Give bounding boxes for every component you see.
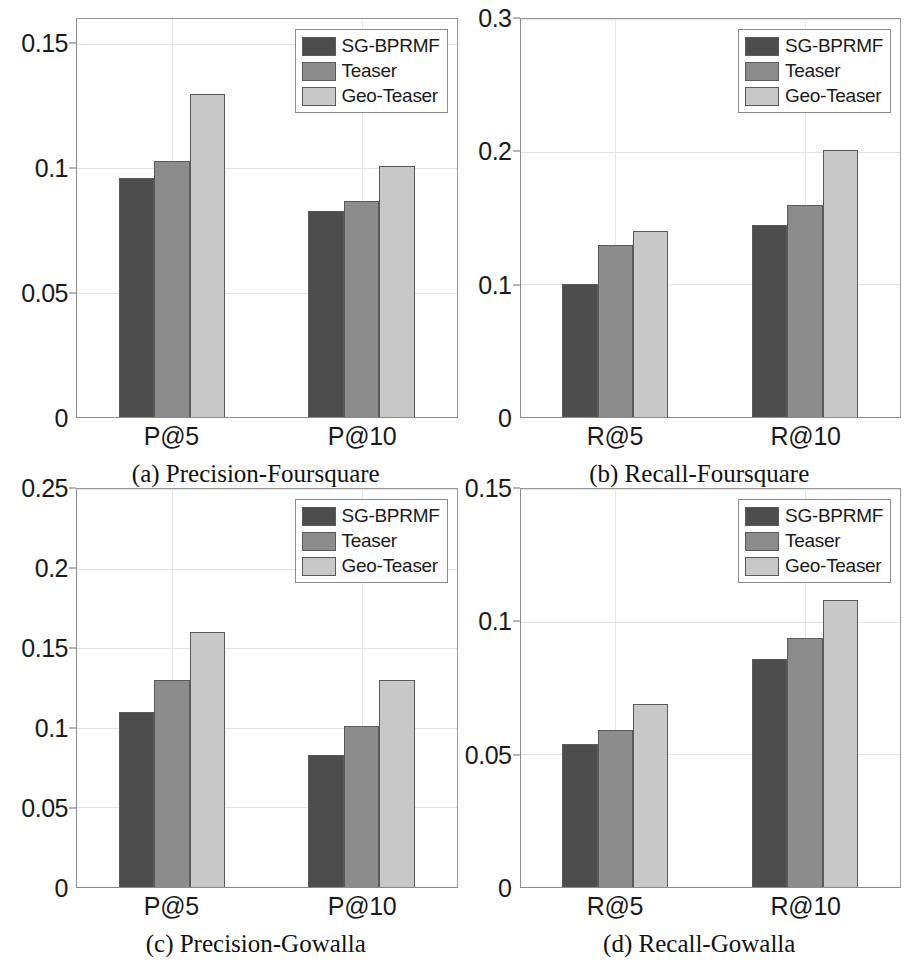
legend-label: SG-BPRMF [785,505,883,527]
bar-p-at-10-sg-bprmf [308,755,343,887]
caption-a: (a) Precision-Foursquare [54,460,458,488]
y-tick-mark [513,18,520,19]
y-tick-label: 0.3 [478,4,511,33]
x-axis-ticks-a: P@5P@10 [76,418,458,458]
legend-swatch-teaser [745,62,779,81]
y-tick-label: 0.2 [35,554,68,583]
y-tick-mark [513,621,520,622]
bar-p-at-5-teaser [154,161,189,417]
y-tick-label: 0.1 [478,607,511,636]
legend-row: SG-BPRMF [302,505,440,527]
bar-r-at-10-geo-teaser [823,150,858,417]
legend-label: Geo-Teaser [342,555,438,577]
legend-label: Teaser [785,60,840,82]
y-tick-label: 0 [498,404,511,433]
x-axis-ticks-b: R@5R@10 [520,418,902,458]
plot-row: 00.050.10.15 SG-BPRMFTeaserGeo-Teaser [458,488,902,888]
legend-row: Teaser [745,530,883,552]
y-tick-mark [69,808,76,809]
y-tick-label: 0.05 [21,279,68,308]
bar-p-at-5-sg-bprmf [119,712,154,887]
bar-r-at-10-teaser [787,205,822,417]
y-tick-label: 0.15 [21,29,68,58]
legend-d: SG-BPRMFTeaserGeo-Teaser [738,499,891,583]
legend-row: Teaser [302,60,440,82]
axes-c: SG-BPRMFTeaserGeo-Teaser [76,488,458,888]
plot-row: 00.10.20.3 SG-BPRMFTeaserGeo-Teaser [458,18,902,418]
bar-p-at-10-teaser [344,726,379,887]
y-tick-mark [513,754,520,755]
plot-row: 00.050.10.150.20.25 SG-BPRMFTeaserGeo-Te… [14,488,458,888]
x-tick-label: P@5 [144,892,199,921]
y-axis-ticks-c: 00.050.10.150.20.25 [14,488,76,888]
y-tick-mark [69,488,76,489]
legend-b: SG-BPRMFTeaserGeo-Teaser [738,29,891,113]
y-tick-label: 0 [498,874,511,903]
y-tick-mark [69,293,76,294]
x-tick-label: P@10 [328,892,397,921]
panel-c-precision-gowalla: 00.050.10.150.20.25 SG-BPRMFTeaserGeo-Te… [14,488,458,958]
x-tick-label: R@5 [587,422,643,451]
bar-r-at-5-sg-bprmf [562,744,597,887]
caption-d: (d) Recall-Gowalla [498,930,902,958]
legend-row: SG-BPRMF [302,35,440,57]
bar-p-at-5-geo-teaser [190,632,225,887]
plot-row: 00.050.10.15 SG-BPRMFTeaserGeo-Teaser [14,18,458,418]
bar-r-at-10-teaser [787,638,822,887]
legend-swatch-geo-teaser [745,557,779,576]
legend-swatch-teaser [302,532,336,551]
y-tick-mark [69,168,76,169]
panel-d-recall-gowalla: 00.050.10.15 SG-BPRMFTeaserGeo-Teaser R@… [458,488,902,958]
legend-row: Geo-Teaser [302,85,440,107]
x-axis-ticks-d: R@5R@10 [520,888,902,928]
legend-swatch-sg-bprmf [745,37,779,56]
panel-a-precision-foursquare: 00.050.10.15 SG-BPRMFTeaserGeo-Teaser P@… [14,18,458,488]
legend-row: Teaser [745,60,883,82]
x-tick-label: R@10 [771,892,841,921]
y-tick-label: 0.1 [478,270,511,299]
y-tick-mark [69,43,76,44]
legend-swatch-geo-teaser [302,557,336,576]
panel-b-recall-foursquare: 00.10.20.3 SG-BPRMFTeaserGeo-Teaser R@5R… [458,18,902,488]
legend-swatch-geo-teaser [745,87,779,106]
axes-d: SG-BPRMFTeaserGeo-Teaser [520,488,902,888]
bar-r-at-5-geo-teaser [633,231,668,417]
y-tick-mark [513,488,520,489]
bar-p-at-5-teaser [154,680,189,887]
y-tick-label: 0.15 [465,474,512,503]
y-axis-ticks-d: 00.050.10.15 [458,488,520,888]
legend-c: SG-BPRMFTeaserGeo-Teaser [295,499,448,583]
y-tick-mark [69,648,76,649]
legend-label: Geo-Teaser [342,85,438,107]
y-tick-label: 0 [55,874,68,903]
legend-row: Geo-Teaser [745,85,883,107]
legend-label: Teaser [342,60,397,82]
legend-label: Teaser [342,530,397,552]
x-tick-label: P@5 [144,422,199,451]
legend-label: Geo-Teaser [785,85,881,107]
bar-r-at-5-sg-bprmf [562,284,597,417]
bar-r-at-5-teaser [598,730,633,887]
y-tick-label: 0.1 [35,154,68,183]
y-tick-mark [69,728,76,729]
y-tick-label: 0.2 [478,137,511,166]
y-tick-label: 0.1 [35,714,68,743]
legend-label: SG-BPRMF [785,35,883,57]
y-tick-mark [513,151,520,152]
y-axis-ticks-a: 00.050.10.15 [14,18,76,418]
legend-row: Teaser [302,530,440,552]
legend-a: SG-BPRMFTeaserGeo-Teaser [295,29,448,113]
bar-r-at-10-sg-bprmf [752,225,787,417]
axes-b: SG-BPRMFTeaserGeo-Teaser [520,18,902,418]
x-tick-label: P@10 [328,422,397,451]
legend-swatch-teaser [745,532,779,551]
bar-p-at-5-geo-teaser [190,94,225,417]
legend-row: Geo-Teaser [745,555,883,577]
legend-swatch-sg-bprmf [745,507,779,526]
bar-p-at-10-geo-teaser [379,680,414,887]
bar-p-at-5-sg-bprmf [119,178,154,417]
x-tick-label: R@10 [771,422,841,451]
legend-label: SG-BPRMF [342,505,440,527]
caption-b: (b) Recall-Foursquare [498,460,902,488]
bar-r-at-5-teaser [598,245,633,417]
